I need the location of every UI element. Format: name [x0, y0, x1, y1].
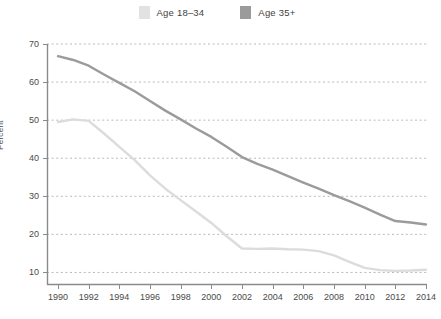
x-tickmark-1994 — [119, 285, 120, 289]
x-tick-label-1996: 1996 — [133, 292, 167, 302]
y-tick-label-70: 70 — [15, 39, 39, 49]
chart-legend: Age 18–34 Age 35+ — [0, 0, 434, 24]
y-tick-label-60: 60 — [15, 77, 39, 87]
y-tickmark-40 — [43, 158, 47, 159]
x-tick-label-2002: 2002 — [225, 292, 259, 302]
y-tick-label-40: 40 — [15, 153, 39, 163]
plot-area: 1020304050607019901992199419961998200020… — [47, 44, 427, 285]
x-tick-label-2010: 2010 — [348, 292, 382, 302]
x-tick-label-1994: 1994 — [102, 292, 136, 302]
legend-item-age-18-34: Age 18–34 — [139, 6, 205, 19]
x-tick-label-2000: 2000 — [194, 292, 228, 302]
x-tick-label-1998: 1998 — [164, 292, 198, 302]
y-tick-label-30: 30 — [15, 191, 39, 201]
y-tickmark-20 — [43, 234, 47, 235]
y-tickmark-60 — [43, 82, 47, 83]
x-tickmark-1998 — [181, 285, 182, 289]
y-tickmark-50 — [43, 120, 47, 121]
x-tickmark-1996 — [150, 285, 151, 289]
legend-label-age-35-plus: Age 35+ — [258, 7, 295, 18]
x-tick-label-2004: 2004 — [256, 292, 290, 302]
series-line-age-18-34 — [58, 119, 426, 271]
y-tick-label-10: 10 — [15, 267, 39, 277]
y-axis-label: Percent — [0, 120, 5, 150]
x-tick-label-2006: 2006 — [286, 292, 320, 302]
x-tickmark-1990 — [58, 285, 59, 289]
y-tickmark-30 — [43, 196, 47, 197]
legend-swatch-age-35-plus — [240, 6, 251, 19]
x-tick-label-1992: 1992 — [72, 292, 106, 302]
y-tickmark-10 — [43, 272, 47, 273]
x-tickmark-2004 — [273, 285, 274, 289]
legend-swatch-age-18-34 — [139, 6, 150, 19]
x-tick-label-2012: 2012 — [378, 292, 412, 302]
x-tick-label-2008: 2008 — [317, 292, 351, 302]
x-tickmark-2006 — [303, 285, 304, 289]
x-tick-label-1990: 1990 — [41, 292, 75, 302]
x-tickmark-2008 — [334, 285, 335, 289]
x-tickmark-2014 — [426, 285, 427, 289]
y-tickmark-70 — [43, 44, 47, 45]
x-tickmark-2002 — [242, 285, 243, 289]
x-tickmark-2010 — [365, 285, 366, 289]
x-tickmark-1992 — [89, 285, 90, 289]
legend-item-age-35-plus: Age 35+ — [240, 6, 295, 19]
x-tickmark-2012 — [395, 285, 396, 289]
plot-canvas — [47, 44, 427, 285]
y-tick-label-50: 50 — [15, 115, 39, 125]
x-tickmark-2000 — [211, 285, 212, 289]
y-tick-label-20: 20 — [15, 229, 39, 239]
legend-label-age-18-34: Age 18–34 — [157, 7, 205, 18]
x-tick-label-2014: 2014 — [409, 292, 441, 302]
